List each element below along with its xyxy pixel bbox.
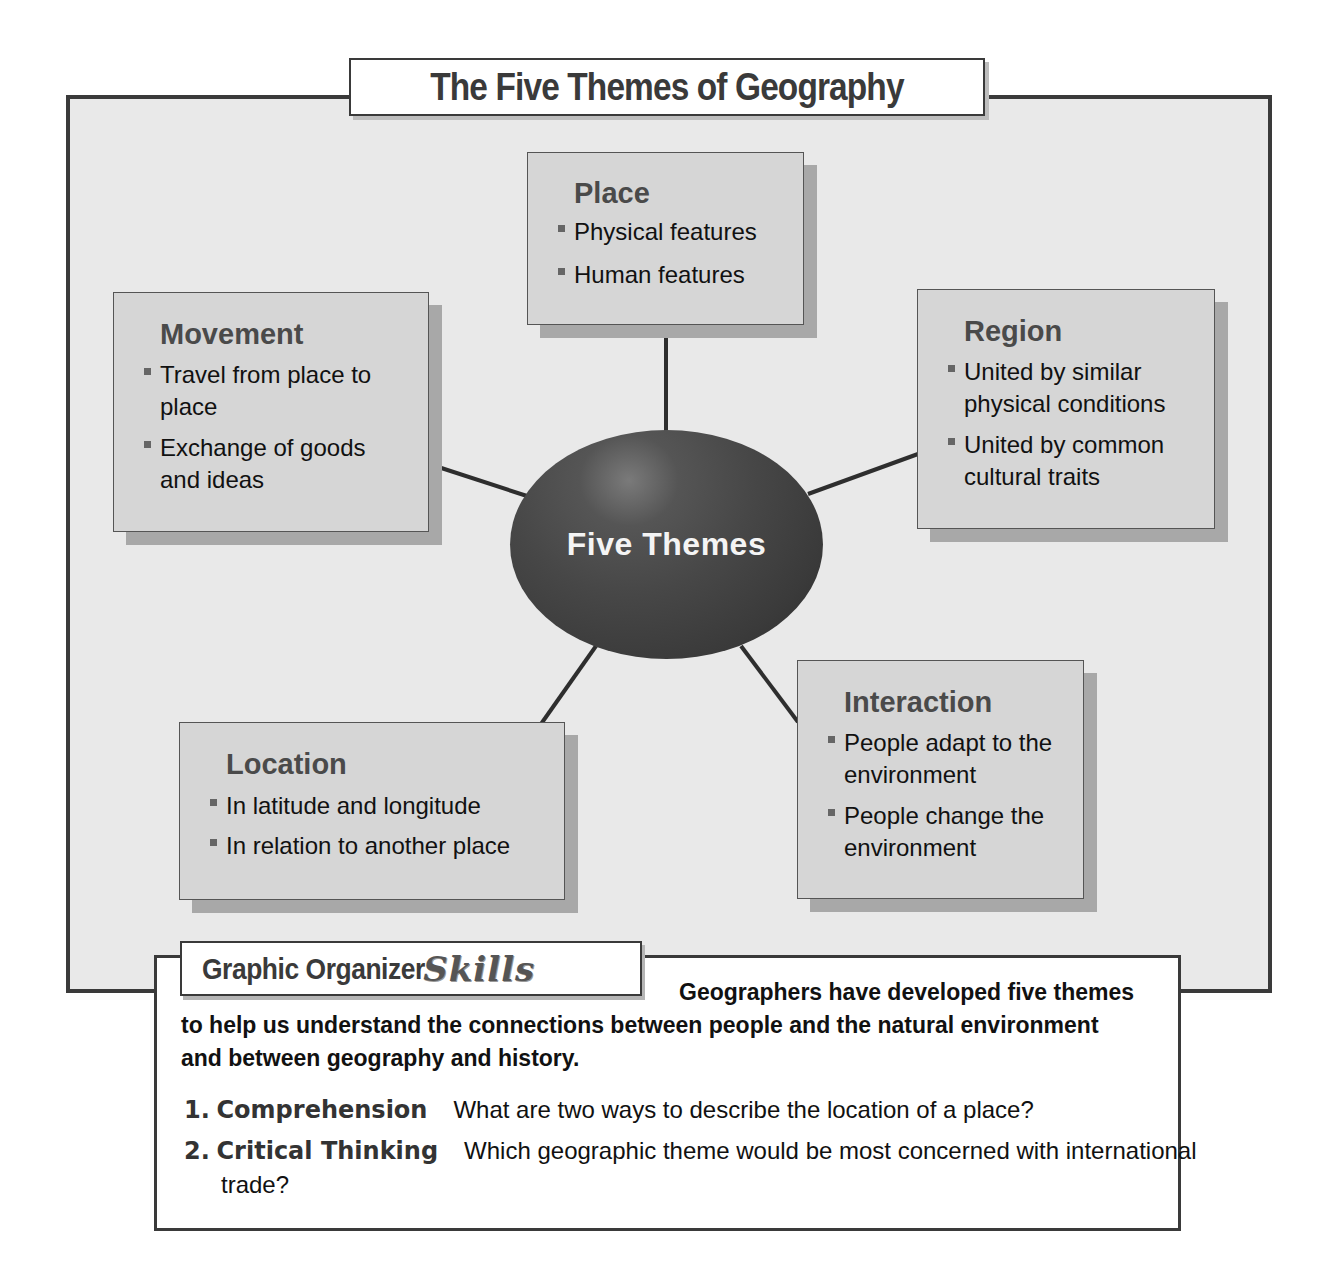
question-1: 1. ComprehensionWhat are two ways to des… <box>184 1093 1174 1127</box>
list-item: Exchange of goods and ideas <box>144 432 404 496</box>
skills-intro: Geographers have developed five themes t… <box>181 976 1141 1075</box>
theme-list-movement: Travel from place to place Exchange of g… <box>144 359 404 496</box>
list-item: United by similar physical conditions <box>948 356 1198 420</box>
bullet-icon <box>210 799 217 806</box>
list-item: Travel from place to place <box>144 359 404 423</box>
theme-title-region: Region <box>964 315 1214 348</box>
list-item: In relation to another place <box>210 830 564 862</box>
theme-list-place: Physical features Human features <box>558 216 803 291</box>
theme-box-interaction: Interaction People adapt to the environm… <box>797 660 1084 899</box>
bullet-icon <box>828 736 835 743</box>
connector-movement <box>429 464 527 496</box>
bullet-icon <box>144 441 151 448</box>
connector-region <box>808 454 918 494</box>
question-label: Comprehension <box>217 1096 428 1124</box>
list-item: Physical features <box>558 216 803 248</box>
list-item: United by common cultural traits <box>948 429 1198 493</box>
theme-box-movement: Movement Travel from place to place Exch… <box>113 292 429 532</box>
bullet-icon <box>210 839 217 846</box>
question-2: 2. Critical ThinkingWhich geographic the… <box>184 1134 1201 1202</box>
bullet-icon <box>144 368 151 375</box>
hub-ellipse: Five Themes <box>510 430 823 659</box>
title-banner: The Five Themes of Geography <box>349 58 985 116</box>
bullet-icon <box>948 365 955 372</box>
list-item: People change the environment <box>828 800 1058 864</box>
theme-title-movement: Movement <box>160 318 428 351</box>
theme-list-location: In latitude and longitude In relation to… <box>210 790 564 862</box>
bullet-icon <box>828 809 835 816</box>
bullet-icon <box>558 225 565 232</box>
connector-interaction <box>741 646 798 722</box>
question-text: What are two ways to describe the locati… <box>453 1096 1033 1123</box>
hub-label: Five Themes <box>567 526 766 563</box>
connector-location <box>541 646 596 724</box>
bullet-icon <box>948 438 955 445</box>
bullet-icon <box>558 268 565 275</box>
list-item: Human features <box>558 259 803 291</box>
theme-list-interaction: People adapt to the environment People c… <box>828 727 1058 864</box>
question-number: 2. <box>184 1137 210 1165</box>
theme-box-region: Region United by similar physical condit… <box>917 289 1215 529</box>
theme-title-interaction: Interaction <box>844 686 1083 719</box>
page-title: The Five Themes of Geography <box>430 66 903 109</box>
question-label: Critical Thinking <box>217 1137 439 1165</box>
theme-box-location: Location In latitude and longitude In re… <box>179 722 565 900</box>
theme-title-location: Location <box>226 748 564 781</box>
list-item: In latitude and longitude <box>210 790 564 822</box>
list-item: People adapt to the environment <box>828 727 1058 791</box>
theme-box-place: Place Physical features Human features <box>527 152 804 325</box>
question-number: 1. <box>184 1096 210 1124</box>
theme-list-region: United by similar physical conditions Un… <box>948 356 1198 493</box>
theme-title-place: Place <box>574 177 803 210</box>
